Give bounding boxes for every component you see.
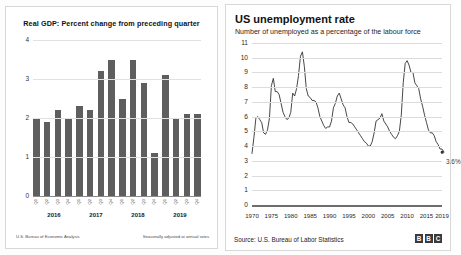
gdp-gridline: 0	[33, 196, 201, 197]
gdp-quarter-tick-label: Q2	[130, 199, 137, 204]
gdp-year-tick-label: 2017	[75, 212, 117, 218]
unemployment-chart-title: US unemployment rate	[235, 13, 355, 25]
bbc-logo-block: C	[434, 234, 442, 243]
unemployment-x-tick-label: 1995	[342, 212, 356, 219]
gdp-quarter-tick-label: Q4	[108, 199, 115, 204]
gdp-quarter-tick-label: Q2	[44, 199, 51, 204]
unemployment-gridline: 9	[252, 72, 442, 73]
gdp-quarter-tick-label: Q1	[76, 199, 83, 204]
unemployment-gridline: 0	[252, 205, 442, 207]
unemployment-x-tick-label: 2000	[362, 212, 376, 219]
gdp-bar	[44, 122, 51, 196]
gdp-bar	[141, 83, 148, 196]
gdp-quarter-tick-label: Q3	[55, 199, 62, 204]
gdp-bar	[194, 114, 201, 196]
gdp-quarter-tick-label: Q2	[87, 199, 94, 204]
gdp-year-tick-label: 2018	[117, 212, 159, 218]
gdp-y-tick-label: 3	[25, 76, 29, 83]
unemployment-gridline: 1	[252, 190, 442, 191]
unemployment-gridline: 2	[252, 176, 442, 177]
unemployment-y-tick-label: 1	[244, 187, 248, 194]
unemployment-x-tick-label: 1980	[284, 212, 298, 219]
unemployment-y-tick-label: 8	[244, 84, 248, 91]
gdp-quarter-axis: Q1Q2Q3Q4Q1Q2Q3Q4Q1Q2Q3Q4Q1Q2Q3Q4	[33, 199, 201, 204]
gdp-y-tick-label: 1	[25, 154, 29, 161]
unemployment-x-tick-label: 1970	[245, 212, 259, 219]
gdp-plot-area: 01234	[33, 40, 201, 196]
gdp-quarter-tick-label: Q2	[173, 199, 180, 204]
unemployment-x-tick-label: 1975	[265, 212, 279, 219]
gdp-chart-title: Real GDP: Percent change from preceding …	[6, 19, 217, 28]
gdp-quarter-tick-label: Q3	[184, 199, 191, 204]
bbc-logo: BBC	[415, 234, 442, 243]
unemployment-x-tick-label: 1985	[303, 212, 317, 219]
unemployment-gridline: 8	[252, 87, 442, 88]
gdp-footer: U.S. Bureau of Economic Analysis Seasona…	[16, 234, 209, 239]
gdp-year-tick-label: 2016	[33, 212, 75, 218]
bbc-logo-block: B	[415, 234, 423, 243]
unemployment-end-marker	[441, 151, 444, 154]
gdp-y-tick-label: 0	[25, 193, 29, 200]
unemployment-x-tick-label: 2005	[381, 212, 395, 219]
gdp-year-tick-label: 2019	[159, 212, 201, 218]
gdp-quarter-tick-label: Q1	[119, 199, 126, 204]
unemployment-y-tick-label: 5	[244, 128, 248, 135]
unemployment-x-tick-label: 1990	[323, 212, 337, 219]
unemployment-y-tick-label: 6	[244, 113, 248, 120]
unemployment-y-tick-label: 7	[244, 99, 248, 106]
gdp-bar	[162, 75, 169, 196]
gdp-bar	[87, 110, 94, 196]
bbc-logo-block: B	[425, 234, 433, 243]
unemployment-gridline: 5	[252, 131, 442, 132]
unemployment-chart-panel: US unemployment rate Number of unemploye…	[225, 4, 451, 251]
gdp-bar	[184, 114, 191, 196]
unemployment-line-path	[252, 43, 442, 205]
unemployment-x-tick-label: 2015	[420, 212, 434, 219]
unemployment-gridline: 10	[252, 58, 442, 59]
unemployment-end-label: 3.6%	[446, 157, 461, 164]
gdp-quarter-tick-label: Q3	[141, 199, 148, 204]
gdp-bar	[76, 106, 83, 196]
gdp-bar	[151, 153, 158, 196]
gdp-note-label: Seasonally adjusted at annual rates	[143, 234, 209, 239]
gdp-gridline: 2	[33, 118, 201, 119]
gdp-source-label: U.S. Bureau of Economic Analysis	[16, 234, 80, 239]
unemployment-x-tick-label: 2010	[400, 212, 414, 219]
gdp-quarter-tick-label: Q4	[194, 199, 201, 204]
unemployment-y-tick-label: 3	[244, 158, 248, 165]
unemployment-gridline: 4	[252, 146, 442, 147]
unemployment-y-tick-label: 10	[241, 54, 248, 61]
unemployment-y-tick-label: 9	[244, 69, 248, 76]
gdp-gridline: 4	[33, 40, 201, 41]
unemployment-y-tick-label: 2	[244, 172, 248, 179]
unemployment-y-tick-label: 4	[244, 143, 248, 150]
gdp-bar	[119, 99, 126, 197]
gdp-quarter-tick-label: Q4	[65, 199, 72, 204]
gdp-year-axis: 2016201720182019	[33, 212, 201, 218]
gdp-bar	[55, 110, 62, 196]
unemployment-y-tick-label: 11	[241, 40, 248, 47]
gdp-quarter-tick-label: Q1	[33, 199, 40, 204]
unemployment-x-tick-label: 2019	[435, 212, 449, 219]
unemployment-gridline: 3	[252, 161, 442, 162]
gdp-gridline: 3	[33, 79, 201, 80]
gdp-quarter-tick-label: Q1	[162, 199, 169, 204]
gdp-y-tick-label: 4	[25, 37, 29, 44]
gdp-quarter-tick-label: Q4	[151, 199, 158, 204]
gdp-gridline: 1	[33, 157, 201, 158]
unemployment-source-label: Source: U.S. Bureau of Labor Statistics	[234, 236, 344, 243]
gdp-bar	[98, 71, 105, 196]
unemployment-chart-subtitle: Number of unemployed as a percentage of …	[235, 28, 421, 36]
gdp-y-tick-label: 2	[25, 115, 29, 122]
unemployment-plot-area: 3.6% 01234567891011	[252, 43, 442, 205]
unemployment-gridline: 7	[252, 102, 442, 103]
unemployment-gridline: 6	[252, 117, 442, 118]
unemployment-y-tick-label: 0	[244, 202, 248, 209]
gdp-chart-panel: Real GDP: Percent change from preceding …	[5, 6, 218, 249]
unemployment-gridline: 11	[252, 43, 442, 44]
gdp-quarter-tick-label: Q3	[98, 199, 105, 204]
